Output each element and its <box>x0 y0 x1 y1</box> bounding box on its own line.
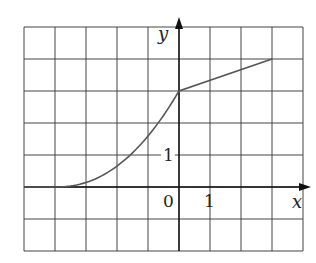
axes <box>24 17 311 251</box>
y-tick-label-1: 1 <box>163 145 174 165</box>
x-axis-arrow-icon <box>299 183 311 191</box>
y-axis-label: y <box>157 23 169 44</box>
function-graph: x y 0 1 1 <box>0 0 316 263</box>
x-axis-label: x <box>292 191 302 212</box>
origin-label: 0 <box>163 191 174 211</box>
x-tick-label-1: 1 <box>204 191 215 211</box>
y-axis-arrow-icon <box>175 17 183 29</box>
grid-lines <box>24 27 303 251</box>
